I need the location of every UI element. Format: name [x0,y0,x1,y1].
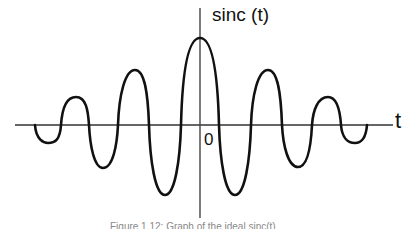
figure-caption: Figure 1.12: Graph of the ideal sinc(t) [110,222,276,229]
origin-label: 0 [204,131,213,148]
x-axis-label: t [395,110,401,132]
y-axis-label: sinc (t) [212,5,269,24]
sinc-diagram [0,0,413,229]
sinc-curve [35,38,367,195]
